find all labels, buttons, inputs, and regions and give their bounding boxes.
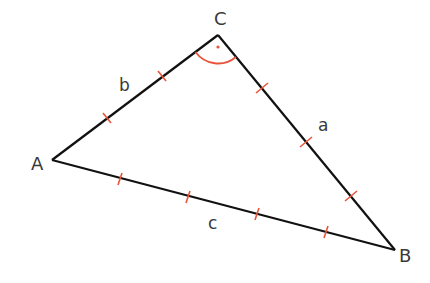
side-b (52, 35, 218, 160)
side-label-b: b (119, 75, 130, 95)
side-label-c: c (208, 213, 217, 233)
vertex-label-a: A (31, 153, 44, 174)
vertex-label-c: C (214, 8, 227, 29)
side-c (52, 160, 395, 250)
side-label-a: a (318, 115, 328, 135)
vertex-label-b: B (399, 245, 411, 266)
triangle-diagram: A B C b a c (0, 0, 430, 283)
